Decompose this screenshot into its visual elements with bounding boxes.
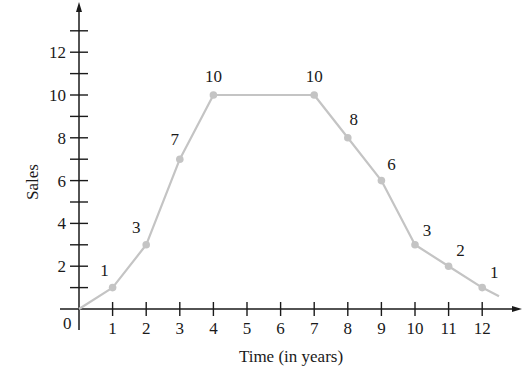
data-point-marker — [445, 262, 453, 270]
x-tick-label: 7 — [310, 319, 319, 338]
data-point-label: 6 — [387, 155, 396, 174]
x-tick-label: 10 — [407, 319, 424, 338]
x-ticks: 123456789101112 — [108, 302, 490, 338]
x-tick-label: 1 — [108, 319, 117, 338]
data-point-marker — [210, 91, 218, 99]
y-tick-label: 8 — [58, 129, 67, 148]
x-tick-label: 5 — [243, 319, 252, 338]
data-point-label: 3 — [423, 221, 432, 240]
data-point-label: 10 — [205, 67, 222, 86]
data-point-marker — [344, 134, 352, 142]
data-point-marker — [109, 284, 117, 292]
sales-line — [79, 95, 499, 309]
x-axis-arrow-icon — [512, 306, 522, 312]
chart-canvas: 123456789101112 24681012 137101086321 0 … — [0, 0, 526, 376]
y-tick-label: 2 — [58, 257, 67, 276]
x-tick-label: 11 — [440, 319, 456, 338]
series-sales: 137101086321 — [79, 67, 499, 309]
y-axis-title: Sales — [23, 164, 42, 200]
y-tick-label: 4 — [58, 214, 67, 233]
data-point-label: 2 — [456, 241, 465, 260]
data-point-label: 8 — [350, 110, 359, 129]
data-point-label: 3 — [132, 218, 141, 237]
data-point-marker — [142, 241, 150, 249]
y-tick-label: 6 — [58, 172, 67, 191]
sales-line-chart: 123456789101112 24681012 137101086321 0 … — [0, 0, 526, 376]
data-point-label: 1 — [490, 263, 499, 282]
y-tick-label: 12 — [49, 43, 66, 62]
y-ticks: 24681012 — [49, 31, 88, 288]
data-point-marker — [310, 91, 318, 99]
x-tick-label: 4 — [209, 319, 218, 338]
data-point-marker — [478, 284, 486, 292]
data-point-label: 7 — [171, 130, 180, 149]
x-tick-label: 6 — [276, 319, 285, 338]
data-point-label: 10 — [306, 67, 323, 86]
axes: 123456789101112 24681012 — [49, 2, 522, 338]
data-labels: 137101086321 — [100, 67, 498, 282]
data-markers — [109, 91, 486, 291]
data-point-marker — [378, 177, 386, 185]
y-axis-arrow-icon — [76, 2, 82, 12]
x-tick-label: 8 — [344, 319, 353, 338]
origin-label: 0 — [63, 314, 72, 333]
data-point-marker — [176, 155, 184, 163]
data-point-label: 1 — [100, 261, 109, 280]
x-tick-label: 3 — [176, 319, 185, 338]
y-tick-label: 10 — [49, 86, 66, 105]
x-tick-label: 2 — [142, 319, 151, 338]
data-point-marker — [411, 241, 419, 249]
x-tick-label: 9 — [377, 319, 386, 338]
x-tick-label: 12 — [474, 319, 491, 338]
x-axis-title: Time (in years) — [239, 347, 343, 366]
